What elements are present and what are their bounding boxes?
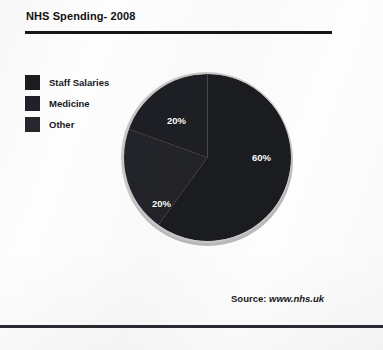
title-divider xyxy=(25,31,332,34)
document-page: NHS Spending- 2008 Staff Salaries Medici… xyxy=(0,0,383,350)
legend-item-label: Medicine xyxy=(49,98,90,109)
page-title: NHS Spending- 2008 xyxy=(26,10,135,22)
source-url: www.nhs.uk xyxy=(269,293,324,304)
pie-value-label-staff-salaries: 60% xyxy=(252,152,271,163)
legend-swatch-icon xyxy=(25,117,40,132)
source-note: Source: www.nhs.uk xyxy=(231,293,324,304)
legend-item-label: Other xyxy=(49,119,74,130)
pie-value-label-medicine: 20% xyxy=(152,198,171,209)
footer-divider xyxy=(0,325,383,328)
legend-swatch-icon xyxy=(25,75,40,90)
pie-chart: 60% 20% 20% xyxy=(120,71,295,246)
pie-value-label-other: 20% xyxy=(167,115,186,126)
legend-item-label: Staff Salaries xyxy=(49,77,109,88)
source-label: Source: xyxy=(231,293,266,304)
legend-swatch-icon xyxy=(25,96,40,111)
